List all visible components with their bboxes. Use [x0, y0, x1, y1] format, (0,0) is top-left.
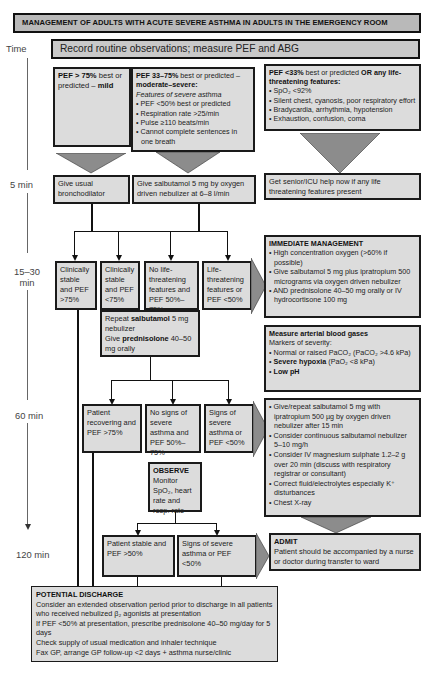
connector-line	[91, 204, 93, 232]
page-title: MANAGEMENT OF ADULTS WITH ACUTE SEVERE A…	[13, 13, 421, 33]
connector-line	[150, 357, 151, 381]
life-features-list: SpO₂ <92% Silent chest, cyanosis, poor r…	[269, 86, 416, 123]
connector-line	[172, 380, 173, 400]
list-item: Respiration rate >25/min	[136, 109, 250, 118]
severe-features-list: PEF <50% best or predicted Respiration r…	[136, 99, 250, 146]
list-item: AND prednisolone 40–50 mg orally or IV h…	[269, 286, 416, 305]
moderate-assessment-box: PEF 33–75% best or predicted – moderate–…	[131, 67, 255, 152]
give-salbutamol-box: Give salbutamol 5 mg by oxygen driven ne…	[132, 175, 256, 204]
list-item: Silent chest, cyanosis, poor respiratory…	[269, 96, 416, 105]
senior-help-box: Get senior/ICU help now if any life thre…	[264, 173, 421, 200]
time-axis-label: Time	[6, 43, 26, 54]
abg-subtitle: Markers of severity:	[269, 338, 332, 347]
severe-signs-box: Signs of severe asthma or PEF <50%	[204, 404, 254, 453]
observe-box: OBSERVE Monitor SpO₂, heart rate and res…	[148, 462, 202, 512]
give-bronchodilator-box: Give usual bronchodilator	[53, 175, 130, 204]
life-threatening-assessment-box: PEF <33% best or predicted OR any life-t…	[264, 64, 421, 131]
connector-line	[111, 380, 112, 400]
moderate-pef-label: PEF 33–75%	[136, 71, 178, 80]
immediate-management-box: IMMEDIATE MANAGEMENT High concentration …	[264, 235, 421, 318]
abg-heading: Measure arterial blood gases	[269, 329, 368, 338]
salbutamol-drug: salbutamol	[131, 314, 170, 323]
connector-line	[137, 523, 217, 524]
time-axis-arrow-icon	[25, 524, 31, 530]
list-item: Severe hypoxia (PaO₂ <8 kPa)	[269, 357, 416, 366]
further-management-box: Give/repeat salbutamol 5 mg with ipratro…	[264, 398, 421, 517]
patient-recovering-box: Patient recovering and PEF >75%	[82, 404, 142, 453]
life-threatening-pef-under-50-box: Life-threatening features or PEF <50%	[202, 261, 252, 310]
no-severe-signs-box: No signs of severe asthma and PEF 50%–75…	[145, 404, 201, 453]
list-item: Pulse ≥110 beats/min	[136, 118, 250, 127]
severe-hypoxia-label: Severe hypoxia	[274, 357, 327, 366]
time-axis-line	[27, 423, 28, 525]
list-item: PEF <50% best or predicted	[136, 99, 250, 108]
hypoxia-value: (PaO₂ <8 kPa)	[326, 357, 375, 366]
time-axis-line	[27, 290, 28, 400]
moderate-severity: moderate–severe:	[136, 80, 198, 89]
observe-heading: OBSERVE	[153, 466, 189, 475]
further-management-list: Give/repeat salbutamol 5 mg with ipratro…	[269, 402, 416, 508]
list-item: Cannot complete sentences in one breath	[136, 127, 250, 146]
connector-line	[111, 380, 228, 381]
list-item: High concentration oxygen (>60% if possi…	[269, 248, 416, 267]
mild-severity: mild	[98, 81, 114, 90]
list-item: Chest X-ray	[269, 498, 416, 508]
chevron-right-icon	[256, 533, 270, 579]
discharge-line: Fax GP, arrange GP follow-up <2 days + a…	[36, 648, 273, 658]
list-item: Exhaustion, confusion, coma	[269, 114, 416, 123]
prednisolone-drug: prednisolone	[122, 334, 168, 343]
list-item: Consider IV magnesium sulphate 1.2–2 g o…	[269, 450, 416, 479]
connector-line	[74, 231, 228, 232]
connector-line	[198, 204, 200, 232]
chevron-down-icon	[156, 152, 220, 174]
stable-pef-over-75-box: Clinically stable and PEF >75%	[55, 261, 97, 310]
observe-text: Monitor SpO₂, heart rate and resp. rate	[153, 476, 192, 515]
list-item: Give salbutamol 5 mg plus ipratropium 50…	[269, 267, 416, 286]
life-text: best or predicted	[304, 68, 362, 77]
admit-heading: ADMIT	[274, 537, 297, 546]
immediate-management-list: High concentration oxygen (>60% if possi…	[269, 248, 416, 304]
moderate-text: best or predicted –	[178, 71, 240, 80]
list-item: Give/repeat salbutamol 5 mg with ipratro…	[269, 402, 416, 431]
low-ph-label: Low pH	[274, 367, 300, 376]
discharge-heading: POTENTIAL DISCHARGE	[36, 590, 123, 599]
time-axis-line	[27, 193, 28, 253]
list-item: SpO₂ <92%	[269, 86, 416, 95]
connector-line	[74, 231, 75, 256]
no-life-threatening-box: No life-threatening features and PEF 50%…	[144, 261, 199, 310]
list-item: Bradycardia, arrhythmia, hypotension	[269, 105, 416, 114]
chevron-down-icon	[56, 153, 126, 175]
time-mark-60min: 60 min	[15, 410, 43, 421]
discharge-line: Consider an extended observation period …	[36, 600, 273, 619]
chevron-down-icon	[300, 133, 380, 175]
severe-signs-120-box: Signs of severe asthma or PEF <50%	[177, 535, 257, 577]
connector-line	[227, 231, 228, 256]
admit-text: Patient should be accompanied by a nurse…	[274, 547, 414, 566]
stable-pef-under-75-box: Clinically stable and PEF <75%	[100, 261, 140, 310]
mild-assessment-box: PEF > 75% best or predicted – mild	[53, 67, 131, 147]
list-item: Normal or raised PaCO₂ (PaCO₂ >4.6 kPa)	[269, 348, 416, 357]
time-mark-5min: 5 min	[10, 179, 33, 190]
discharge-line: Check supply of usual medication and inh…	[36, 638, 273, 648]
list-item: Correct fluid/electrolytes especially K⁺…	[269, 479, 416, 498]
discharge-line: If PEF <50% at presentation, prescribe p…	[36, 619, 273, 638]
list-item: Low pH	[269, 367, 416, 376]
record-observations-box: Record routine observations; measure PEF…	[51, 39, 420, 59]
list-item: Consider continuous salbutamol nebulizer…	[269, 431, 416, 450]
severity-markers-list: Normal or raised PaCO₂ (PaCO₂ >4.6 kPa) …	[269, 348, 416, 376]
connector-line	[170, 231, 171, 256]
potential-discharge-box: POTENTIAL DISCHARGE Consider an extended…	[31, 586, 278, 662]
connector-line	[92, 446, 94, 590]
connector-line	[228, 380, 229, 400]
connector-line	[118, 231, 119, 256]
life-pef-label: PEF <33%	[269, 68, 304, 77]
connector-line	[77, 310, 79, 590]
admit-box: ADMIT Patient should be accompanied by a…	[269, 533, 421, 571]
repeat-salbutamol-box: Repeat salbutamol 5 mg nebulizer Give pr…	[100, 310, 200, 357]
time-axis-line	[27, 58, 28, 170]
repeat-text: Repeat	[105, 314, 131, 323]
time-mark-15-30min: 15–30 min	[10, 266, 44, 288]
give-text: Give	[105, 334, 122, 343]
severe-features-heading: Features of severe asthma	[136, 90, 222, 99]
patient-stable-box: Patient stable and PEF >50%	[102, 535, 175, 577]
